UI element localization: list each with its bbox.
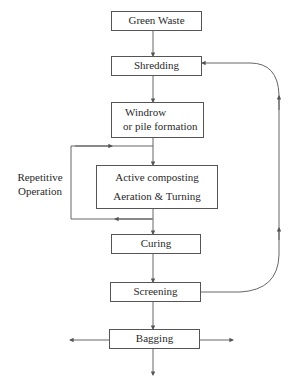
node-windrow: Windrow or pile formation bbox=[111, 102, 204, 138]
node-label-line1: Windrow bbox=[125, 106, 166, 120]
node-label: Bagging bbox=[136, 332, 173, 346]
node-label-line1: Active composting bbox=[115, 171, 198, 185]
node-label: Curing bbox=[141, 237, 172, 251]
node-active-composting: Active composting Aeration & Turning bbox=[96, 165, 218, 209]
node-shredding: Shredding bbox=[111, 56, 202, 76]
node-label: Shredding bbox=[134, 59, 179, 73]
node-screening: Screening bbox=[110, 282, 201, 302]
node-label-line2: or pile formation bbox=[123, 120, 198, 134]
repetitive-operation-label: Repetitive Operation bbox=[14, 170, 66, 199]
node-bagging: Bagging bbox=[109, 329, 200, 349]
loop-label-line1: Repetitive bbox=[14, 170, 66, 184]
loop-label-line2: Operation bbox=[14, 184, 66, 198]
node-curing: Curing bbox=[111, 234, 201, 254]
node-green-waste: Green Waste bbox=[111, 11, 202, 31]
flowchart-canvas: Green Waste Shredding Windrow or pile fo… bbox=[0, 0, 292, 390]
node-label: Screening bbox=[134, 285, 178, 299]
node-label: Green Waste bbox=[128, 14, 184, 28]
node-label-line2: Aeration & Turning bbox=[113, 190, 200, 204]
